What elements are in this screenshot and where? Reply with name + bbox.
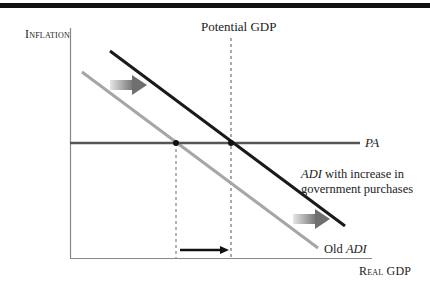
new-equilibrium-point	[228, 140, 234, 146]
output-increase-arrow-icon	[180, 246, 229, 254]
potential-gdp-label: Potential GDP	[201, 19, 276, 35]
new-adi-label: ADI with increase in government purchase…	[301, 167, 413, 197]
upper-shift-arrow-icon	[110, 75, 147, 95]
old-adi-label-italic: ADI	[346, 242, 367, 256]
old-adi-curve	[82, 72, 318, 248]
old-adi-label-prefix: Old	[324, 242, 346, 256]
y-axis-label: Inflation	[25, 27, 70, 42]
old-adi-label: Old ADI	[324, 242, 367, 257]
x-axis-label: Real GDP	[359, 264, 411, 279]
new-adi-label-line2: government purchases	[301, 182, 413, 196]
old-equilibrium-point	[173, 140, 179, 146]
new-adi-curve	[110, 51, 345, 226]
new-adi-label-italic: ADI	[301, 167, 322, 181]
new-adi-label-rest: with increase in	[322, 167, 404, 181]
pa-label: PA	[365, 135, 379, 151]
